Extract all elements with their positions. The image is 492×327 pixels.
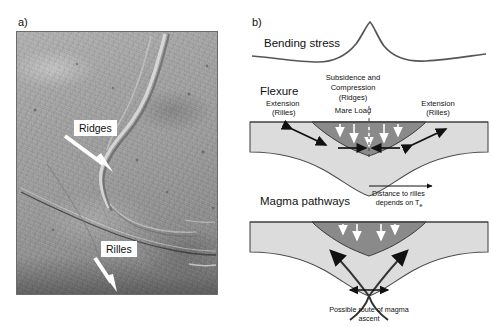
flexure-left-line2: (Rilles) (272, 108, 296, 117)
bending-stress-label: Bending stress (264, 37, 340, 49)
rilles-label: Rilles (101, 241, 137, 257)
magma-caption-line2: ascent (358, 314, 379, 323)
distance-note-text: depends on T (376, 198, 420, 207)
ridges-label: Ridges (74, 120, 117, 136)
flexure-right-line1: Extension (421, 99, 454, 108)
schematic-diagram: Bending stress Flexure Extension (Rilles… (246, 0, 492, 327)
panel-a: a) (0, 0, 246, 327)
bending-stress-group: Bending stress (252, 22, 486, 62)
flexure-title: Flexure (260, 85, 298, 97)
rille-lineations (21, 98, 216, 286)
distance-note-subscript: e (419, 202, 422, 208)
rilles-annotation-arrow (95, 258, 117, 292)
surface-photograph: Ridges Rilles (16, 31, 218, 295)
distance-note-line1: Distance to rilles (372, 189, 425, 198)
magma-section: Magma pathways Possibl (250, 195, 488, 323)
panel-a-tag: a) (18, 16, 28, 28)
magma-title: Magma pathways (260, 195, 350, 207)
crater-specks (33, 63, 214, 232)
distance-note-line2: depends on Te (376, 198, 423, 208)
flexure-center-line3: (Ridges) (339, 93, 368, 102)
flexure-left-line1: Extension (266, 99, 299, 108)
panel-b: b) Bending stress Flexure Extension (246, 0, 492, 327)
flexure-section: Flexure Extension (Rilles) Subsidence an… (250, 73, 488, 208)
mare-load-label: Mare Load (335, 106, 371, 115)
flexure-center-line1: Subsidence and (326, 73, 380, 82)
flexure-right-line2: (Rilles) (426, 108, 450, 117)
magma-caption-line1: Possible route of magma (329, 305, 409, 314)
flexure-center-line2: Compression (331, 83, 376, 92)
